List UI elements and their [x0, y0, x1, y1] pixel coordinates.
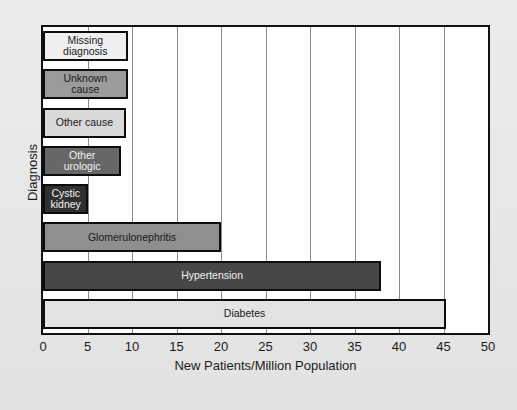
x-axis-label: New Patients/Million Population: [41, 358, 490, 373]
bar-other-cause[interactable]: Other cause: [43, 108, 126, 138]
bar-label: Missing diagnosis: [59, 35, 111, 57]
bar-glomerulonephritis[interactable]: Glomerulonephritis: [43, 222, 221, 252]
x-tick-label-35: 35: [347, 339, 361, 354]
bar-missing-diagnosis[interactable]: Missing diagnosis: [43, 31, 128, 61]
x-tick-label-15: 15: [169, 339, 183, 354]
plot-area: Missing diagnosisUnknown causeOther caus…: [41, 25, 490, 335]
bar-row: Missing diagnosis: [43, 31, 128, 61]
bar-label: Other cause: [52, 117, 117, 128]
bar-label: Unknown cause: [45, 73, 126, 95]
x-tick-label-20: 20: [214, 339, 228, 354]
bar-cystic-kidney[interactable]: Cystic kidney: [43, 184, 88, 214]
x-tick-label-30: 30: [303, 339, 317, 354]
bar-hypertension[interactable]: Hypertension: [43, 261, 381, 291]
bar-series: Missing diagnosisUnknown causeOther caus…: [43, 27, 488, 333]
y-axis-label: Diagnosis: [25, 113, 40, 233]
bar-diabetes[interactable]: Diabetes: [43, 299, 446, 329]
bar-row: Unknown cause: [43, 69, 128, 99]
bar-row: Other cause: [43, 108, 126, 138]
bar-label: Diabetes: [220, 308, 269, 319]
bar-label: Hypertension: [177, 270, 247, 281]
bar-row: Diabetes: [43, 299, 446, 329]
x-tick-label-40: 40: [392, 339, 406, 354]
x-tick-label-10: 10: [125, 339, 139, 354]
bar-row: Cystic kidney: [43, 184, 88, 214]
bar-row: Glomerulonephritis: [43, 222, 221, 252]
x-tick-label-0: 0: [39, 339, 46, 354]
bar-other-urologic[interactable]: Other urologic: [43, 146, 121, 176]
x-tick-label-25: 25: [258, 339, 272, 354]
bar-unknown-cause[interactable]: Unknown cause: [43, 69, 128, 99]
chart-figure: Missing diagnosisUnknown causeOther caus…: [0, 0, 517, 410]
bar-label: Cystic kidney: [47, 188, 85, 210]
bar-row: Other urologic: [43, 146, 121, 176]
bar-label: Other urologic: [60, 150, 105, 172]
x-tick-label-50: 50: [481, 339, 495, 354]
x-tick-label-45: 45: [436, 339, 450, 354]
bar-label: Glomerulonephritis: [84, 232, 180, 243]
x-tick-label-5: 5: [84, 339, 91, 354]
bar-row: Hypertension: [43, 261, 381, 291]
x-axis-ticks: 05101520253035404550: [41, 339, 490, 355]
